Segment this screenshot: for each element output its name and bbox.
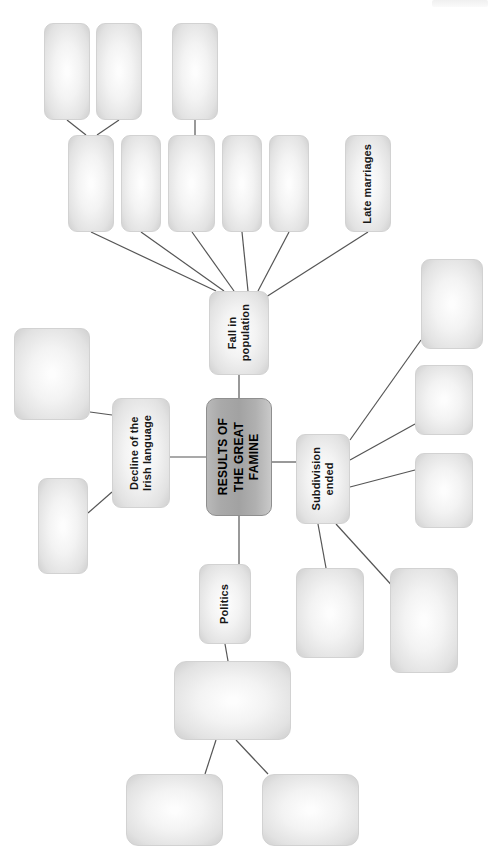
node-blank-politics-main[interactable] [174,661,291,740]
connector-blank-politics-main-to-blank-bottom-2 [236,740,268,774]
connector-decline-of-the-irish-language-to-blank-left-upper [90,412,112,415]
connector-subdivision-ended-to-blank-right-1 [350,340,421,440]
connector-fall-in-population-to-blank-row-5 [258,232,289,291]
node-blank-row-5[interactable] [269,135,309,232]
connector-fall-in-population-to-blank-row-2 [141,232,224,291]
node-blank-top-2[interactable] [96,23,142,120]
node-politics[interactable]: Politics [199,564,251,644]
connector-fall-in-population-to-blank-row-3 [192,232,234,291]
node-blank-lower-right-1[interactable] [296,568,364,658]
connector-blank-row-1-to-blank-top-1 [67,120,86,135]
mind-map-canvas: RESULTS OF THE GREAT FAMINE Fall in popu… [0,0,496,862]
connector-subdivision-ended-to-blank-right-3 [350,470,415,487]
node-blank-left-lower[interactable] [38,478,88,574]
node-label: Late marriages [361,144,374,224]
connector-fall-in-population-to-blank-row-4 [242,232,248,291]
node-blank-row-4[interactable] [222,135,262,232]
node-label: Fall in population [226,304,253,361]
node-blank-bottom-1[interactable] [126,774,223,846]
connector-decline-of-the-irish-language-to-blank-left-lower [88,492,112,513]
node-label: RESULTS OF THE GREAT FAMINE [216,418,263,495]
node-label: Politics [218,584,231,624]
node-blank-right-1[interactable] [421,259,483,349]
node-blank-bottom-2[interactable] [262,774,359,846]
node-label: Subdivision ended [310,447,337,510]
node-blank-lower-right-2[interactable] [390,568,458,673]
node-late-marriages[interactable]: Late marriages [345,135,391,232]
node-blank-right-2[interactable] [415,365,473,435]
connector-blank-politics-main-to-blank-bottom-1 [205,740,216,774]
node-blank-top-3[interactable] [172,23,218,120]
connector-blank-row-1-to-blank-top-2 [97,120,119,135]
connector-fall-in-population-to-late-marriages [266,232,368,297]
connector-politics-to-blank-politics-main [225,644,228,661]
connector-subdivision-ended-to-blank-lower-right-1 [318,524,326,568]
node-blank-left-upper[interactable] [14,328,90,420]
connector-subdivision-ended-to-blank-right-2 [350,424,415,460]
node-label: Decline of the Irish language [128,415,155,491]
node-blank-row-3[interactable] [168,135,215,232]
top-edge-artifact [432,0,488,7]
node-blank-top-1[interactable] [44,23,90,120]
connector-fall-in-population-to-blank-row-1 [91,232,216,291]
node-decline-of-the-irish-language[interactable]: Decline of the Irish language [112,398,170,508]
node-blank-right-3[interactable] [415,453,473,528]
node-fall-in-population[interactable]: Fall in population [209,291,269,375]
node-central-results-of-the-great-famine[interactable]: RESULTS OF THE GREAT FAMINE [206,398,272,516]
node-blank-row-1[interactable] [68,135,114,232]
node-blank-row-2[interactable] [121,135,161,232]
node-subdivision-ended[interactable]: Subdivision ended [296,434,350,524]
